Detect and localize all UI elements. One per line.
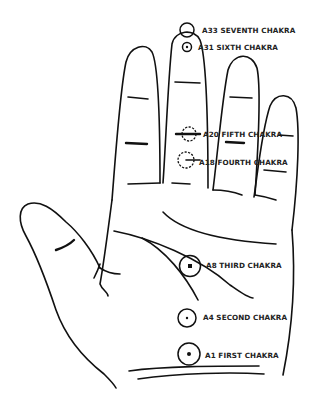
index-crease-2 bbox=[126, 143, 147, 144]
chakra-marker-a33 bbox=[180, 23, 194, 37]
thumb-base-crease-a bbox=[94, 264, 100, 278]
index-crease-1 bbox=[128, 97, 148, 99]
chakra-markers bbox=[176, 23, 201, 365]
label-sixth-chakra: A31 SIXTH CHAKRA bbox=[198, 43, 278, 52]
middle-base-crease bbox=[172, 183, 190, 184]
index-base-crease bbox=[128, 183, 160, 184]
chakra-marker-a31 bbox=[183, 43, 192, 52]
label-first-chakra: A1 FIRST CHAKRA bbox=[205, 351, 279, 360]
heart-line bbox=[163, 212, 276, 244]
label-third-chakra: A8 THIRD CHAKRA bbox=[206, 261, 282, 270]
life-line bbox=[142, 238, 198, 300]
ring-crease-2 bbox=[226, 142, 244, 143]
label-fifth-chakra-leader bbox=[279, 135, 293, 136]
little-base-crease bbox=[255, 195, 276, 200]
hand-outline bbox=[20, 32, 298, 388]
wrist-line-1 bbox=[129, 366, 259, 371]
palm-left-edge bbox=[100, 200, 112, 296]
thumb-knuckle-crease bbox=[56, 240, 74, 250]
label-second-chakra: A4 SECOND CHAKRA bbox=[203, 313, 287, 322]
ring-finger-outline bbox=[213, 56, 259, 195]
thumb-web-crease bbox=[100, 268, 120, 274]
label-fourth-chakra: A18 FOURTH CHAKRA bbox=[199, 158, 288, 167]
chakra-marker-a18 bbox=[178, 152, 200, 168]
middle-crease-1 bbox=[175, 82, 200, 83]
label-seventh-chakra: A33 SEVENTH CHAKRA bbox=[202, 26, 296, 35]
palm-right-edge bbox=[283, 230, 294, 375]
ring-base-crease bbox=[213, 190, 242, 195]
label-fifth-chakra: A20 FIFTH CHAKRA bbox=[203, 130, 282, 139]
ring-crease-1 bbox=[230, 97, 252, 98]
little-crease-1 bbox=[264, 170, 286, 172]
index-finger-outline bbox=[112, 47, 160, 200]
hand-chakra-diagram: A33 SEVENTH CHAKRA A31 SIXTH CHAKRA A20 … bbox=[0, 0, 316, 405]
thumb-outline bbox=[20, 203, 116, 388]
chakra-marker-a4 bbox=[178, 309, 196, 327]
chakra-marker-a20 bbox=[176, 127, 200, 141]
chakra-marker-a1 bbox=[178, 343, 200, 365]
wrist-line-2 bbox=[138, 373, 264, 379]
chakra-labels: A33 SEVENTH CHAKRA A31 SIXTH CHAKRA A20 … bbox=[198, 26, 296, 360]
